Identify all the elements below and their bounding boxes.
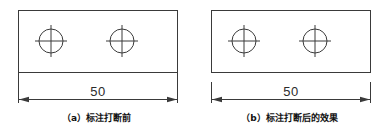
dimension-arrow-right-b — [360, 97, 370, 102]
caption-a: （a）标注打断前 — [0, 112, 193, 124]
dimension-arrow-left-a — [19, 97, 29, 102]
dimension-arrow-right-a — [167, 97, 177, 102]
drawing-a: 50 — [0, 0, 193, 118]
figure-panel-b: 50 （b）标注打断后的效果 — [193, 0, 386, 138]
dimension-arrow-left-b — [212, 97, 222, 102]
figure-panel-a: 50 （a）标注打断前 — [0, 0, 193, 138]
figure-root: 50 （a）标注打断前 — [0, 0, 386, 138]
dimension-value-a: 50 — [90, 84, 105, 99]
caption-b: （b）标注打断后的效果 — [193, 112, 386, 124]
dimension-value-b: 50 — [283, 84, 298, 99]
drawing-b: 50 — [193, 0, 386, 118]
